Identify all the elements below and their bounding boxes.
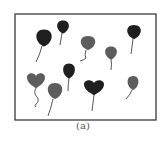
balloon-body (63, 64, 75, 79)
balloon-body (127, 25, 141, 39)
figure-caption: (a) (0, 120, 166, 131)
balloon-string (35, 88, 39, 107)
balloon-string (68, 78, 69, 91)
round-balloon-1 (36, 30, 52, 63)
balloon-body (128, 76, 139, 90)
round-balloon-4 (105, 47, 117, 71)
balloon-string (111, 59, 112, 70)
round-balloon-5 (127, 25, 141, 54)
balloon-string (92, 95, 94, 111)
balloon-body (105, 47, 117, 60)
balloon-body (48, 83, 62, 99)
round-balloon-2 (57, 21, 69, 46)
round-balloon-3 (80, 36, 95, 61)
heart-balloon-9 (84, 80, 104, 111)
round-balloon-7 (48, 83, 62, 116)
balloon-figure: (a) (0, 0, 166, 148)
balloon-string (126, 90, 132, 99)
balloon-body (57, 21, 69, 34)
balloon-string (131, 39, 133, 54)
balloons-group (27, 21, 141, 117)
round-balloon-8 (63, 64, 75, 92)
heart-balloon-6 (27, 73, 45, 107)
balloon-string (80, 50, 86, 61)
balloon-body (27, 73, 45, 88)
balloon-body (84, 80, 104, 95)
balloon-string (60, 33, 62, 45)
balloon-body (81, 36, 95, 50)
round-balloon-10 (126, 76, 138, 99)
balloon-string (36, 46, 42, 62)
balloon-string (48, 99, 53, 116)
balloon-body (36, 30, 51, 47)
